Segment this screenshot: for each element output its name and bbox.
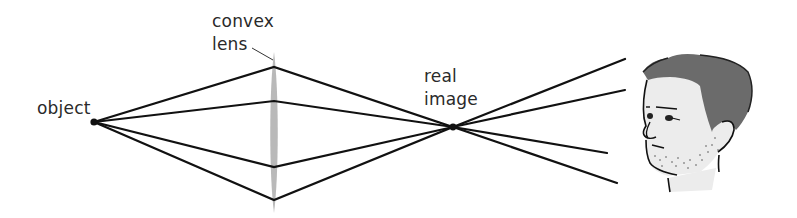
real-image-label-line1: real	[424, 65, 457, 87]
object-label: object	[37, 97, 91, 119]
object-point-icon	[90, 118, 97, 125]
ray-4	[94, 122, 617, 200]
lens-label-line1: convex	[212, 10, 274, 32]
convex-lens-diagram: object convex lens real image	[0, 0, 797, 218]
observer-face-icon	[643, 54, 752, 192]
light-rays	[94, 59, 625, 200]
convex-lens-icon	[270, 52, 278, 213]
real-image-point-icon	[450, 124, 457, 131]
lens-label-leader	[252, 48, 273, 60]
lens-label-line2: lens	[212, 33, 248, 55]
diagram-canvas	[0, 0, 797, 218]
ray-3	[94, 122, 607, 167]
ray-1	[94, 59, 625, 127]
real-image-label-line2: image	[424, 88, 478, 110]
